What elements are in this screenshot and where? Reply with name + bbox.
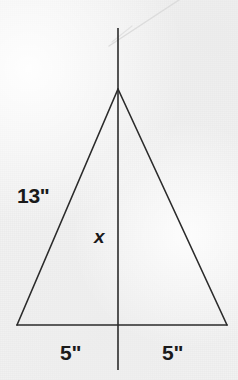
stray-pencil-mark-tail [112, 26, 132, 42]
triangle-right-side [118, 89, 227, 325]
label-base-right-segment: 5" [162, 342, 183, 363]
label-leg-length: 13" [17, 185, 49, 206]
label-base-left-segment: 5" [60, 342, 81, 363]
stray-pencil-mark [109, 0, 182, 46]
label-altitude-variable: x [94, 227, 105, 246]
geometry-figure: 13" x 5" 5" [0, 0, 238, 380]
triangle-left-side [17, 89, 118, 325]
